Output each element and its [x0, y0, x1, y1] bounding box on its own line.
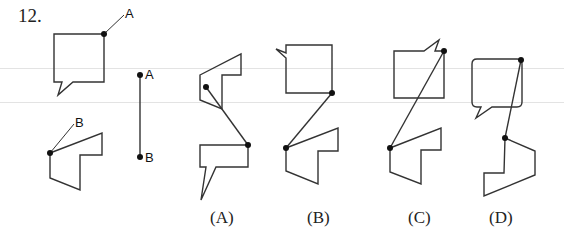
dot-segment-b: [137, 154, 143, 160]
option-d-label[interactable]: (D): [489, 208, 513, 228]
reference-speech-bubble: [54, 15, 124, 95]
option-d-figure: [472, 59, 535, 196]
dot-option-a-2: [245, 142, 251, 148]
label-bubble-a: A: [125, 6, 134, 21]
label-shape-b: B: [75, 115, 84, 130]
dot-option-a-1: [203, 84, 209, 90]
option-c-figure: [390, 40, 444, 184]
dot-option-b-2: [283, 145, 289, 151]
option-a-label[interactable]: (A): [210, 208, 234, 228]
dot-option-d-2: [502, 135, 508, 141]
dot-shape-b: [47, 150, 53, 156]
reference-notched-shape: [50, 124, 102, 190]
dot-option-c-2: [387, 145, 393, 151]
dot-option-d-1: [518, 57, 524, 63]
option-b-figure: [276, 45, 338, 184]
dot-option-c-1: [441, 48, 447, 54]
option-c-label[interactable]: (C): [408, 208, 431, 228]
option-a-figure: [200, 54, 248, 200]
diagram-canvas: [0, 0, 564, 241]
dot-segment-a: [137, 72, 143, 78]
option-b-label[interactable]: (B): [307, 208, 330, 228]
label-segment-b: B: [145, 150, 154, 165]
label-segment-a: A: [145, 67, 154, 82]
dot-bubble-a: [101, 31, 107, 37]
dot-option-b-1: [329, 90, 335, 96]
